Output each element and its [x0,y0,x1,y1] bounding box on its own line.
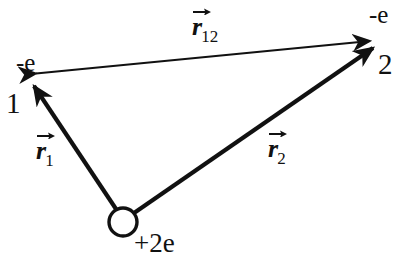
vector-r2-line [134,48,373,213]
electron-2-charge-label: -e [369,2,388,27]
vector-r2-label: r 2 [268,136,287,162]
electron-1-charge-label: -e [16,50,35,75]
nucleus-charge-label: +2e [134,230,175,257]
vector-r1-label: r 1 [36,138,55,164]
vector-r12-label: r 12 [192,14,219,40]
vector-r1-subscript: 1 [45,152,54,169]
vector-r2-subscript: 2 [277,150,286,167]
nucleus-circle [109,208,137,236]
vector-r12-subscript: 12 [201,28,218,45]
electron-2-index-label: 2 [378,50,393,79]
diagram-canvas: -e 1 -e 2 +2e r 12 r 1 r [0,0,416,272]
electron-1-index-label: 1 [6,89,21,118]
